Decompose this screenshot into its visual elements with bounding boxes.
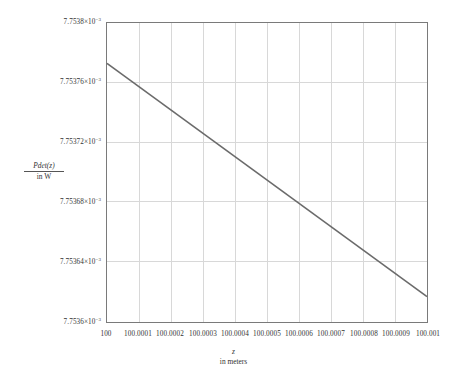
x-tick-label: 100.0004 [221,330,249,338]
x-tick-label: 100.0009 [382,330,410,338]
y-axis-title: Pdet(z) in W [16,162,72,182]
x-tick-label: 100.0007 [317,330,345,338]
x-axis-title-variable: z [0,347,467,357]
x-tick-label: 100.001 [416,330,440,338]
chart-figure: 7.7538×10−3 7.75376×10−3 7.75372×10−3 7.… [0,0,467,378]
y-axis-tick-labels: 7.7538×10−3 7.75376×10−3 7.75372×10−3 7.… [0,0,101,378]
x-tick-label: 100.0002 [156,330,184,338]
x-tick-label: 100.0006 [285,330,313,338]
y-tick-label: 7.75368×10−3 [60,198,101,206]
y-tick-label: 7.75372×10−3 [60,138,101,146]
plot-area [106,22,428,323]
y-axis-title-numerator: Pdet(z) [24,162,64,172]
x-tick-label: 100 [100,330,111,338]
x-tick-label: 100.0008 [350,330,378,338]
y-tick-label: 7.7538×10−3 [64,18,101,26]
x-tick-label: 100.0005 [253,330,281,338]
x-axis-tick-labels: 100 100.0001 100.0002 100.0003 100.0004 … [0,330,467,344]
x-axis-title: z in meters [0,347,467,366]
y-axis-title-denominator: in W [16,173,72,182]
x-axis-title-unit: in meters [0,357,467,367]
data-series-line [107,23,427,322]
y-tick-label: 7.75364×10−3 [60,258,101,266]
y-tick-label: 7.75376×10−3 [60,78,101,86]
y-tick-label: 7.7536×10−3 [64,318,101,326]
x-tick-label: 100.0003 [189,330,217,338]
x-tick-label: 100.0001 [124,330,152,338]
